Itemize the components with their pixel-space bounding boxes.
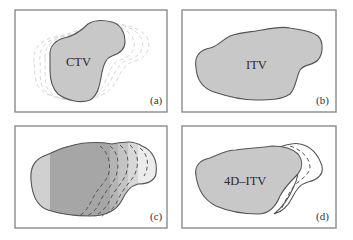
panel-b: ITV (b) <box>182 10 336 112</box>
ctv-label: CTV <box>66 55 91 69</box>
itv-label: ITV <box>246 58 267 72</box>
panel-a-tag: (a) <box>150 94 163 107</box>
figure-canvas: CTV (a) ITV (b) <box>0 0 353 240</box>
4d-itv-label: 4D–ITV <box>224 174 266 188</box>
panel-d-tag: (d) <box>316 210 329 223</box>
panel-c-tag: (c) <box>150 210 163 223</box>
panel-b-tag: (b) <box>316 94 329 107</box>
panel-a: CTV (a) <box>15 10 167 112</box>
panel-c: (c) <box>15 126 167 228</box>
panel-d: 4D–ITV (d) <box>182 126 336 228</box>
